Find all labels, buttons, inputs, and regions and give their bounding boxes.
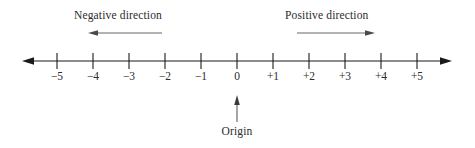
tick-label-zero: 0: [222, 71, 252, 83]
negative-direction-label: Negative direction: [74, 10, 162, 22]
number-line-figure: Negative direction Positive direction −5…: [0, 0, 475, 148]
tick-label-minus-2: −2: [150, 71, 180, 83]
origin-pointer-arrow: [234, 95, 240, 122]
origin-label: Origin: [222, 125, 253, 137]
origin-caption-wrapper: Origin: [0, 126, 475, 138]
tick-label-plus-3: +3: [330, 71, 360, 83]
axis-left-arrowhead: [22, 57, 34, 65]
axis-right-arrowhead: [440, 57, 452, 65]
tick-label-plus-2: +2: [294, 71, 324, 83]
tick-label-plus-1: +1: [258, 71, 288, 83]
negative-direction-arrow: [88, 30, 162, 36]
positive-direction-arrow: [297, 30, 375, 36]
tick-label-minus-1: −1: [186, 71, 216, 83]
tick-label-minus-3: −3: [114, 71, 144, 83]
tick-label-minus-5: −5: [42, 71, 72, 83]
tick-label-minus-4: −4: [78, 71, 108, 83]
positive-direction-label: Positive direction: [285, 10, 369, 22]
tick-label-plus-5: +5: [402, 71, 432, 83]
tick-label-plus-4: +4: [366, 71, 396, 83]
